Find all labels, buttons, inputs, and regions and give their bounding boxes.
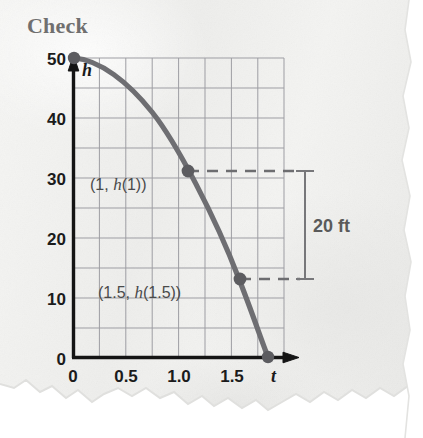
dimension-label: 20 ft: [313, 216, 350, 236]
y-tick-0: 0: [57, 350, 66, 369]
y-axis-label: h: [82, 60, 92, 80]
x-axis-arrow: [283, 352, 299, 363]
x-tick-1-0: 1.0: [167, 367, 191, 386]
marker-landing: [262, 351, 274, 363]
point-1-5-label-fn: h: [134, 283, 143, 302]
point-1-5-label-close: (1.5)): [143, 284, 181, 301]
y-tick-20: 20: [47, 230, 66, 249]
chart-axes: [68, 55, 299, 363]
point-1-5-label: (1.5, h(1.5)): [98, 283, 181, 302]
point-1-label-fn: h: [113, 175, 122, 194]
marker-point-1: [182, 165, 195, 178]
point-1-label-open: (1,: [90, 176, 113, 193]
y-tick-50: 50: [47, 50, 66, 69]
marker-start: [68, 52, 80, 64]
x-tick-0: 0: [68, 367, 77, 386]
x-axis-label: t: [271, 366, 277, 386]
textbook-page: Check: [0, 0, 423, 438]
dimension-bracket: [296, 171, 314, 279]
x-axis-tick-labels: 0 0.5 1.0 1.5: [68, 367, 244, 386]
marker-point-1-5: [234, 273, 247, 286]
x-tick-0-5: 0.5: [114, 367, 138, 386]
y-tick-30: 30: [47, 170, 66, 189]
point-1-label-close: (1)): [122, 176, 147, 193]
height-vs-time-graph: 20 ft 50 40 30 20 10 0: [0, 0, 423, 438]
x-tick-1-5: 1.5: [220, 367, 244, 386]
y-axis-tick-labels: 50 40 30 20 10 0: [47, 50, 66, 369]
point-1-label: (1, h(1)): [90, 175, 147, 194]
y-tick-10: 10: [47, 290, 66, 309]
y-tick-40: 40: [47, 110, 66, 129]
point-1-5-label-open: (1.5,: [98, 284, 134, 301]
